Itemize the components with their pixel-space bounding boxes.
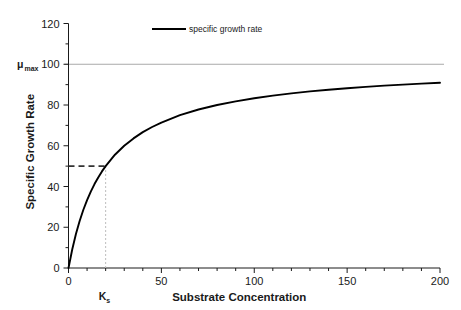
x-axis-title: Substrate Concentration [172, 291, 306, 303]
x-axis-tick-label: 50 [155, 275, 167, 287]
x-axis-tick-label: 100 [245, 275, 263, 287]
legend-entry-label: specific growth rate [189, 24, 262, 34]
x-axis-tick-label: 200 [431, 275, 449, 287]
ks-subscript: s [106, 297, 110, 304]
y-axis-title: Specific Growth Rate [24, 94, 36, 210]
monod-growth-chart: μmax 020406080100120 050100150200 Ks spe… [0, 0, 461, 310]
y-axis-tick-label: 0 [53, 262, 59, 274]
y-axis-tick-label: 40 [47, 181, 59, 193]
y-axis-tick-label: 120 [41, 18, 59, 30]
mu-symbol: μ [17, 58, 23, 70]
y-axis-tick-label: 100 [41, 58, 59, 70]
mu-max-subscript: max [25, 65, 39, 72]
x-axis-tick-label: 0 [65, 275, 71, 287]
y-axis-tick-label: 80 [47, 99, 59, 111]
x-axis-tick-label: 150 [338, 275, 356, 287]
y-axis-tick-label: 20 [47, 221, 59, 233]
y-axis-tick-label: 60 [47, 140, 59, 152]
chart-figure: μmax 020406080100120 050100150200 Ks spe… [0, 0, 461, 310]
